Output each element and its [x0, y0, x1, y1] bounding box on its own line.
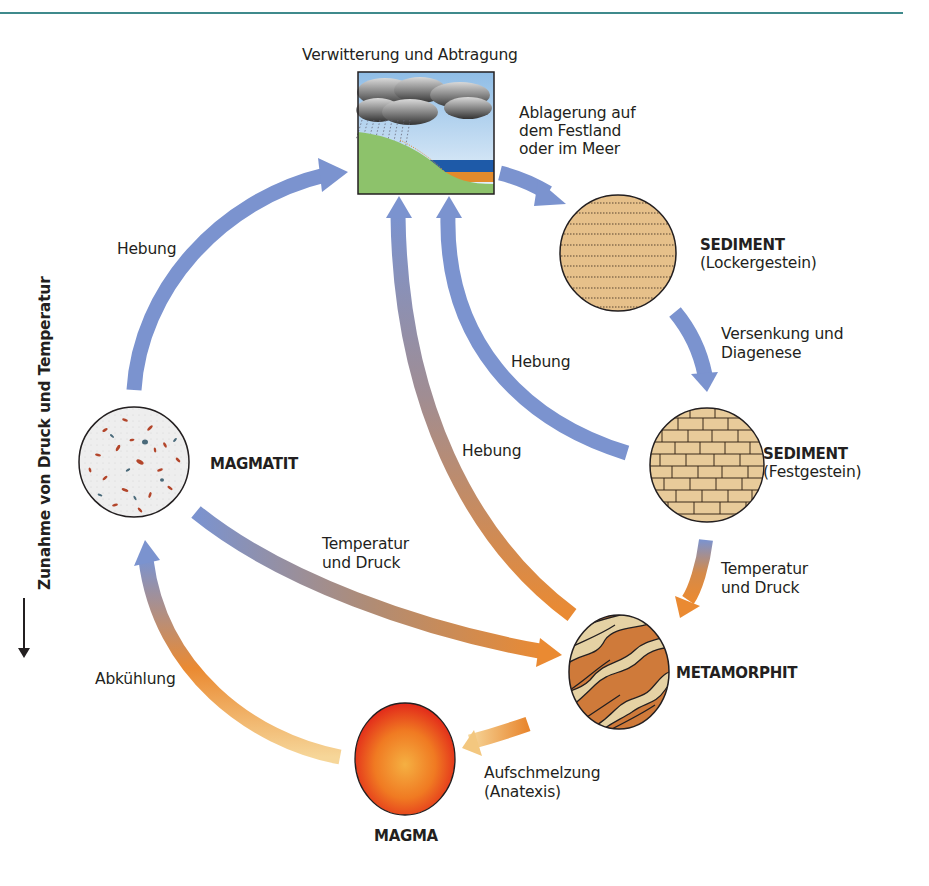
- cooling-label: Abkühlung: [95, 670, 176, 688]
- sediment-loose-illustration: [555, 195, 680, 311]
- arrow-temp-pressure-right: [675, 540, 706, 618]
- temp-pressure-left-line2: und Druck: [322, 554, 400, 572]
- sediment-loose-title: SEDIMENT: [700, 236, 785, 254]
- uplift-right-label: Hebung: [511, 353, 570, 371]
- burial-label-line2: Diagenese: [721, 344, 801, 362]
- arrow-uplift-left: [134, 158, 348, 390]
- sediment-loose-subtitle: (Lockergestein): [700, 254, 817, 272]
- sediment-solid-illustration: [648, 406, 766, 522]
- axis-arrow-down-icon: [23, 598, 25, 650]
- deposition-label-line3: oder im Meer: [519, 140, 620, 158]
- magma-illustration: [355, 703, 455, 815]
- uplift-left-label: Hebung: [117, 240, 176, 258]
- magma-title: MAGMA: [374, 827, 438, 845]
- arrow-deposition: [500, 173, 566, 206]
- deposition-label-line1: Ablagerung auf: [519, 104, 635, 122]
- burial-label-line1: Versenkung und: [721, 325, 843, 343]
- weathering-label: Verwitterung und Abtragung: [302, 46, 518, 64]
- magmatite-illustration: [79, 407, 189, 517]
- deposition-label-line2: dem Festland: [519, 122, 621, 140]
- temp-pressure-left-line1: Temperatur: [322, 535, 409, 553]
- arrow-melting: [462, 724, 528, 756]
- temp-pressure-right-line1: Temperatur: [721, 560, 808, 578]
- melting-label-line1: Aufschmelzung: [484, 764, 600, 782]
- arrow-burial: [675, 312, 718, 392]
- metamorphite-illustration: [560, 598, 680, 740]
- sediment-solid-subtitle: (Festgestein): [763, 463, 861, 481]
- sediment-solid-title: SEDIMENT: [763, 445, 848, 463]
- magmatite-title: MAGMATIT: [210, 455, 298, 473]
- weathering-illustration: [356, 72, 494, 194]
- temp-pressure-right-line2: und Druck: [721, 579, 799, 597]
- uplift-mid-label: Hebung: [462, 442, 521, 460]
- melting-label-line2: (Anatexis): [484, 783, 561, 801]
- metamorphite-title: METAMORPHIT: [676, 664, 797, 682]
- axis-label: Zunahme von Druck und Temperatur: [36, 276, 54, 590]
